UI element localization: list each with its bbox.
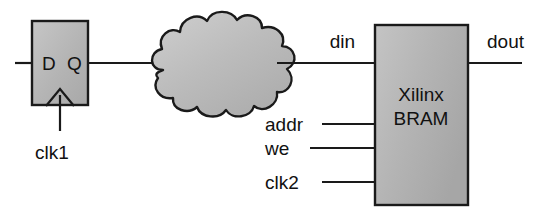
logic-cloud (152, 12, 294, 117)
flipflop-block: D Q (32, 21, 88, 106)
bram-label-line2: BRAM (394, 108, 449, 129)
diagram-svg: D Q clk1 din addr we clk2 Xilinx BRAM (0, 0, 538, 219)
bram-label-line1: Xilinx (398, 84, 444, 105)
we-label: we (264, 138, 289, 159)
clk1-label: clk1 (35, 142, 69, 163)
flipflop-q-port-label: Q (67, 53, 82, 74)
clk2-label: clk2 (265, 172, 299, 193)
block-diagram-canvas: D Q clk1 din addr we clk2 Xilinx BRAM (0, 0, 538, 219)
flipflop-d-port-label: D (42, 53, 56, 74)
din-label: din (330, 31, 355, 52)
cloud-shape (152, 12, 294, 117)
dout-label: dout (487, 31, 525, 52)
addr-label: addr (265, 114, 304, 135)
bram-block: Xilinx BRAM (375, 25, 468, 205)
